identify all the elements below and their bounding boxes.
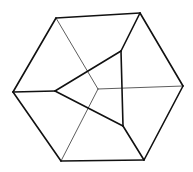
- edge-hex_left-to-tri_left: [13, 91, 55, 92]
- hexagon-triangle-diagram: [0, 0, 193, 172]
- edge-tri_left-to-tri_bottom: [55, 91, 123, 126]
- edge-hex_top_right-to-tri_top: [121, 13, 140, 51]
- edge-hex_left-to-hex_top_left: [13, 18, 56, 92]
- edge-hex_bottom_left-to-hex_left: [13, 92, 61, 161]
- edge-hex_top_right-to-hex_right: [140, 13, 183, 86]
- edge-tri_top-to-tri_left: [55, 51, 121, 91]
- thin-edge-hex_right-to-center: [98, 86, 183, 89]
- edge-hex_bottom_right-to-hex_bottom_left: [61, 160, 144, 161]
- thin-edge-hex_bottom_left-to-center: [61, 89, 98, 161]
- thin-spokes: [56, 18, 183, 161]
- edge-hex_bottom_right-to-tri_bottom: [123, 126, 144, 160]
- edge-tri_bottom-to-tri_top: [121, 51, 123, 126]
- edge-hex_right-to-hex_bottom_right: [144, 86, 183, 160]
- edge-hex_top_left-to-hex_top_right: [56, 13, 140, 18]
